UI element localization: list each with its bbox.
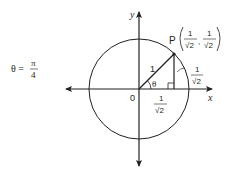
angle-numerator: π [31,58,36,68]
vertical-den: √2 [192,77,201,86]
x-axis-label: x [207,92,213,103]
y-axis-label: y [129,9,135,20]
angle-denominator: 4 [31,70,36,80]
point-p-label: P [169,35,176,46]
right-paren [217,27,220,51]
horizontal-num: 1 [159,94,164,103]
theta-arc [148,81,152,90]
point-y-den: √2 [204,41,213,50]
point-p-dot [172,52,175,55]
angle-lhs: θ = [11,63,24,74]
horizontal-den: √2 [155,106,164,115]
point-y-num: 1 [207,29,212,38]
theta-label: θ [152,79,156,89]
vertical-num: 1 [195,65,200,74]
right-angle-marker [168,83,174,89]
point-x-num: 1 [188,29,193,38]
origin-label: 0 [130,93,135,103]
radius-label: 1 [150,64,155,74]
point-x-den: √2 [185,41,194,50]
radius-line [139,54,174,89]
point-comma: , [198,37,200,46]
left-paren [180,27,183,51]
label-leader [177,68,185,72]
unit-circle-diagram: θ = π 4 y x 0 1 θ 1 √2 1 √2 P 1 √2 , 1 √… [0,0,232,169]
